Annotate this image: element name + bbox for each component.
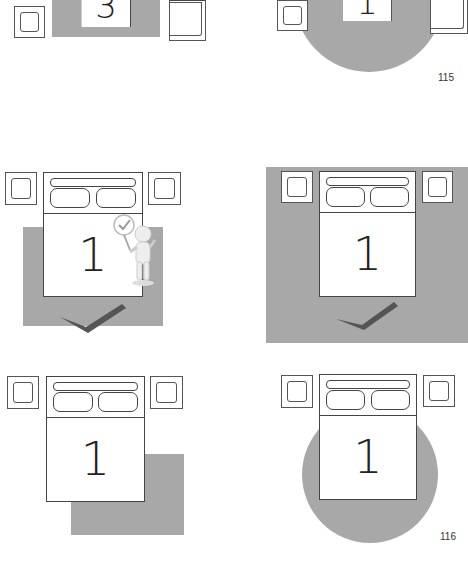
bed-number: 1 — [320, 415, 416, 499]
nightstand — [14, 6, 45, 38]
diagram-rug-round: 1 116 — [234, 360, 468, 573]
page-number: 116 — [440, 531, 456, 542]
nightstand — [277, 0, 308, 31]
nightstand — [430, 0, 468, 34]
bed: 1 — [319, 171, 416, 297]
nightstand-left — [281, 171, 313, 203]
top-left-diagram: 3 — [0, 0, 234, 60]
bed: 1 — [319, 374, 417, 500]
bed-number: 1 — [320, 212, 415, 296]
nightstand — [169, 0, 206, 41]
page-number: 115 — [438, 72, 454, 83]
nightstand-left — [5, 172, 37, 205]
diagram-rug-full: 1 — [234, 160, 468, 350]
figure-holding-check-sign-icon — [113, 212, 163, 292]
nightstand-left — [7, 376, 39, 409]
bed-number: 3 — [82, 0, 130, 26]
nightstand-right — [423, 375, 455, 407]
bed: 1 — [46, 376, 145, 502]
nightstand-right — [150, 376, 183, 409]
top-right-diagram: 1 115 — [234, 0, 468, 90]
diagram-rug-offset: 1 — [0, 360, 234, 540]
nightstand-left — [281, 375, 313, 408]
checkmark-icon — [58, 303, 128, 335]
bed-number: 1 — [343, 0, 391, 22]
nightstand-right — [422, 171, 453, 203]
checkmark-icon — [334, 301, 400, 331]
bed: 1 — [343, 0, 392, 21]
bed: 3 — [81, 0, 131, 27]
diagram-rug-partial: 1 — [0, 160, 234, 340]
nightstand-right — [148, 172, 181, 205]
bed-number: 1 — [47, 417, 144, 501]
